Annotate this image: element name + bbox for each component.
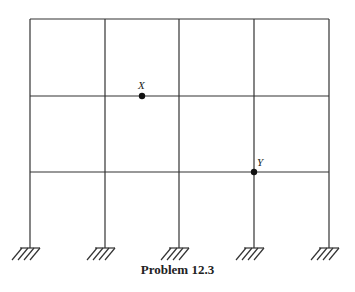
fixed-support-icon xyxy=(236,248,264,260)
node-y-label: Y xyxy=(257,156,265,168)
fixed-support-icon xyxy=(161,248,189,260)
node-x-dot xyxy=(139,93,145,99)
fixed-support-icon xyxy=(87,248,115,260)
frame-diagram: X Y xyxy=(0,0,355,292)
figure-caption: Problem 12.3 xyxy=(0,262,355,278)
fixed-support-icon xyxy=(12,248,40,260)
node-x-label: X xyxy=(137,79,146,91)
node-y-dot xyxy=(251,169,257,175)
fixed-support-icon xyxy=(311,248,339,260)
